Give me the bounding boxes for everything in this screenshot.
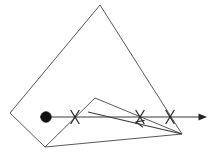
geometry-diagram — [0, 0, 215, 160]
figure-root — [0, 0, 215, 160]
filled-point-marker — [41, 112, 52, 123]
canvas-background — [0, 0, 215, 160]
